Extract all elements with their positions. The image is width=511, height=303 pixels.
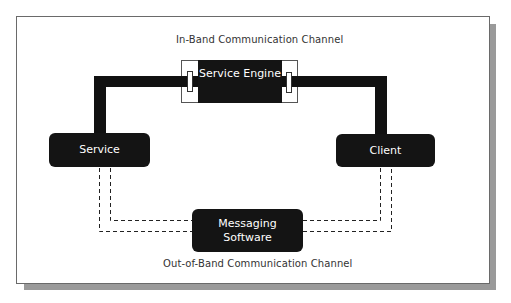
messaging-label-line1: Messaging bbox=[218, 217, 276, 231]
messaging-label-line2: Software bbox=[223, 231, 272, 245]
messaging-software-node[interactable]: Messaging Software bbox=[192, 209, 303, 252]
out-of-band-label: Out-of-Band Communication Channel bbox=[163, 258, 341, 269]
